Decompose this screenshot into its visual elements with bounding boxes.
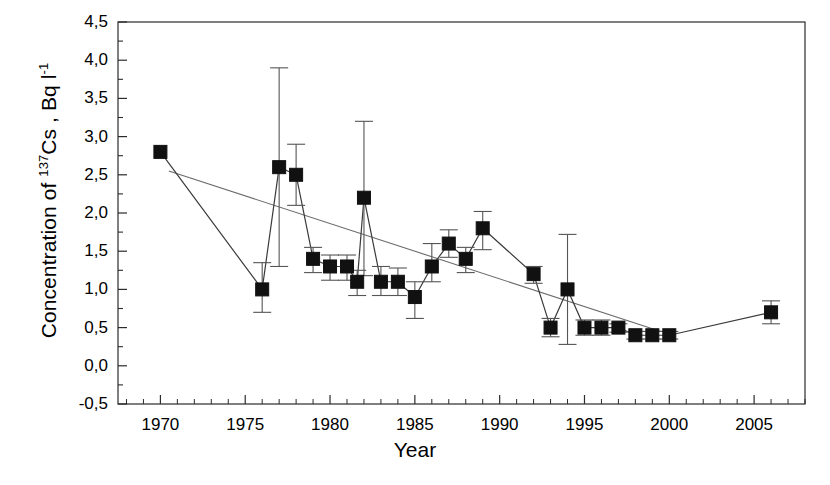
data-point-marker [324, 260, 337, 273]
plot-area [0, 0, 830, 485]
data-point-marker [154, 145, 167, 158]
data-point-marker [408, 291, 421, 304]
data-point-marker [442, 237, 455, 250]
data-point-marker [341, 260, 354, 273]
data-point-marker [307, 252, 320, 265]
data-point-marker [273, 161, 286, 174]
data-point-marker [256, 283, 269, 296]
data-point-marker [595, 321, 608, 334]
data-point-marker [391, 275, 404, 288]
data-point-marker [357, 191, 370, 204]
series-line [160, 152, 771, 335]
data-point-marker [544, 321, 557, 334]
data-point-marker [527, 268, 540, 281]
data-point-marker [374, 275, 387, 288]
data-point-marker [425, 260, 438, 273]
data-point-marker [561, 283, 574, 296]
plot-frame [118, 22, 805, 404]
data-point-marker [459, 252, 472, 265]
chart-figure: Concentration of 137Cs , Bq l-1 Year -0,… [0, 0, 830, 485]
data-point-marker [578, 321, 591, 334]
data-point-marker [663, 329, 676, 342]
data-point-marker [629, 329, 642, 342]
data-point-marker [290, 168, 303, 181]
data-point-marker [765, 306, 778, 319]
data-point-marker [351, 275, 364, 288]
data-point-marker [476, 222, 489, 235]
data-point-marker [612, 321, 625, 334]
data-point-marker [646, 329, 659, 342]
